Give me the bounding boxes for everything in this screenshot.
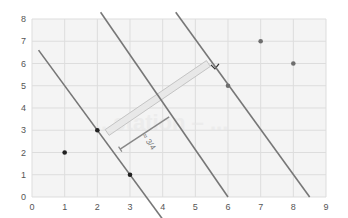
x-tick-label: 6 bbox=[225, 202, 230, 212]
y-tick-label: 0 bbox=[21, 192, 26, 202]
x-tick-label: 3 bbox=[127, 202, 132, 212]
y-tick-label: 2 bbox=[21, 148, 26, 158]
y-tick-label: 6 bbox=[21, 59, 26, 69]
x-tick-label: 8 bbox=[291, 202, 296, 212]
x-tick-label: 7 bbox=[258, 202, 263, 212]
y-tick-label: 3 bbox=[21, 125, 26, 135]
data-point-class-a bbox=[128, 172, 133, 177]
data-point-class-a bbox=[95, 128, 100, 133]
x-tick-label: 9 bbox=[323, 202, 328, 212]
data-point-class-b bbox=[291, 61, 296, 66]
x-axis-ticks: 0123456789 bbox=[29, 202, 328, 212]
y-tick-label: 5 bbox=[21, 81, 26, 91]
x-tick-label: 2 bbox=[95, 202, 100, 212]
y-tick-label: 1 bbox=[21, 170, 26, 180]
y-tick-label: 4 bbox=[21, 103, 26, 113]
scatter-chart: ...station – ... ≈ 3/4 0123456789 012345… bbox=[0, 0, 348, 218]
data-point-class-a bbox=[62, 150, 67, 155]
y-tick-label: 7 bbox=[21, 36, 26, 46]
x-tick-label: 1 bbox=[62, 202, 67, 212]
x-tick-label: 4 bbox=[160, 202, 165, 212]
data-point-class-b bbox=[258, 39, 263, 44]
y-axis-ticks: 012345678 bbox=[21, 14, 26, 202]
x-tick-label: 0 bbox=[29, 202, 34, 212]
y-tick-label: 8 bbox=[21, 14, 26, 24]
data-point-class-b bbox=[226, 83, 231, 88]
x-tick-label: 5 bbox=[193, 202, 198, 212]
